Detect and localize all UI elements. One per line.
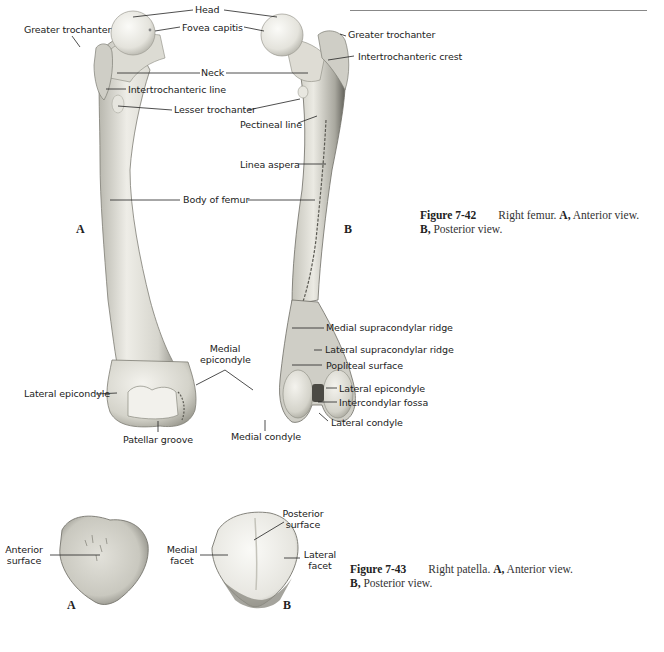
label-posterior-surface: Posterior surface <box>280 508 326 530</box>
label-fovea-capitis: Fovea capitis <box>182 22 243 33</box>
label-head: Head <box>195 4 219 15</box>
label-medial-supracondylar-ridge: Medial supracondylar ridge <box>326 322 453 333</box>
label-medial-facet-line2: facet <box>170 555 193 566</box>
caption-title: Right femur. <box>498 209 556 221</box>
femur-panel-a-label: A <box>76 222 85 237</box>
label-popliteal-surface: Popliteal surface <box>326 360 403 371</box>
label-posterior-surface-line1: Posterior <box>282 508 323 519</box>
label-posterior-surface-line2: surface <box>286 519 320 530</box>
label-neck: Neck <box>201 67 224 78</box>
label-patellar-groove: Patellar groove <box>123 434 193 445</box>
caption-title: Right patella. <box>428 563 490 575</box>
label-lateral-facet: Lateral facet <box>302 549 338 571</box>
caption-view-b-marker: B, <box>420 223 431 235</box>
label-medial-epicondyle-line1: Medial <box>210 343 241 354</box>
label-intertrochanteric-crest: Intertrochanteric crest <box>358 51 462 62</box>
femur-panel-b-label: B <box>344 222 352 237</box>
caption-figure-7-43: Figure 7-43Right patella. A, Anterior vi… <box>350 562 650 590</box>
figure-page: Head Fovea capitis Greater trochanter Gr… <box>0 0 664 652</box>
caption-view-b-text: Posterior view. <box>363 577 432 589</box>
label-intercondylar-fossa: Intercondylar fossa <box>339 397 428 408</box>
label-medial-epicondyle-line2: epicondyle <box>200 354 251 365</box>
caption-view-b-text: Posterior view. <box>433 223 502 235</box>
label-medial-facet-line1: Medial <box>167 544 198 555</box>
figure-number: Figure 7-42 <box>420 209 476 221</box>
label-medial-condyle: Medial condyle <box>231 431 301 442</box>
label-anterior-surface-line2: surface <box>7 555 41 566</box>
caption-view-a-marker: A, <box>559 209 570 221</box>
label-lateral-supracondylar-ridge: Lateral supracondylar ridge <box>325 344 454 355</box>
caption-view-a-marker: A, <box>493 563 504 575</box>
label-anterior-surface-line1: Anterior <box>5 544 43 555</box>
caption-view-a-text: Anterior view. <box>573 209 639 221</box>
label-lateral-condyle: Lateral condyle <box>331 417 403 428</box>
label-lateral-epicondyle-a: Lateral epicondyle <box>24 388 110 399</box>
label-lateral-facet-line2: facet <box>308 560 331 571</box>
label-lateral-facet-line1: Lateral <box>304 549 336 560</box>
figure-number: Figure 7-43 <box>350 563 406 575</box>
caption-figure-7-42: Figure 7-42Right femur. A, Anterior view… <box>420 208 660 236</box>
patella-anterior <box>60 516 148 604</box>
patella-panel-a-label: A <box>67 598 76 613</box>
label-greater-trochanter-b: Greater trochanter <box>348 29 435 40</box>
label-anterior-surface: Anterior surface <box>0 544 48 566</box>
label-medial-epicondyle: Medial epicondyle <box>200 343 250 365</box>
label-lateral-epicondyle-b: Lateral epicondyle <box>339 383 425 394</box>
label-intertrochanteric-line: Intertrochanteric line <box>128 84 226 95</box>
caption-view-b-marker: B, <box>350 577 361 589</box>
label-body-of-femur: Body of femur <box>183 194 249 205</box>
caption-view-a-text: Anterior view. <box>507 563 573 575</box>
patella-panel-b-label: B <box>283 598 291 613</box>
label-linea-aspera: Linea aspera <box>240 159 300 170</box>
label-medial-facet: Medial facet <box>164 544 200 566</box>
label-greater-trochanter-a: Greater trochanter <box>24 24 111 35</box>
label-lesser-trochanter: Lesser trochanter <box>174 104 256 115</box>
label-pectineal-line: Pectineal line <box>240 119 302 130</box>
